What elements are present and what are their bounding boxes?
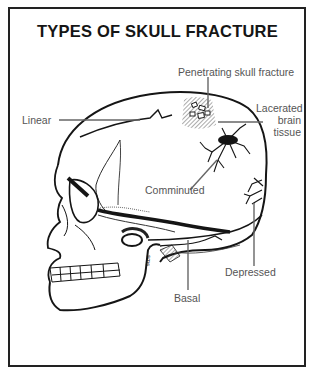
- label-comminuted: Comminuted: [145, 184, 205, 196]
- eye-orbit: [69, 180, 98, 223]
- label-lacerated-1: Lacerated: [256, 102, 301, 114]
- label-linear: Linear: [22, 114, 51, 126]
- label-basal: Basal: [174, 292, 200, 304]
- comminuted-fracture: [200, 124, 250, 172]
- artist-signature: sms: [145, 255, 152, 266]
- depressed-fracture: [244, 178, 263, 204]
- label-penetrating: Penetrating skull fracture: [178, 66, 294, 78]
- ear-canal: [122, 234, 142, 246]
- teeth: [50, 263, 120, 282]
- zygomatic-arch: [98, 210, 230, 232]
- penetrating-fracture-zone: [182, 97, 216, 129]
- face-outline: [48, 165, 62, 282]
- label-depressed: Depressed: [225, 266, 276, 278]
- label-lacerated-2: brain: [256, 114, 301, 126]
- label-lacerated-3: tissue: [256, 126, 301, 138]
